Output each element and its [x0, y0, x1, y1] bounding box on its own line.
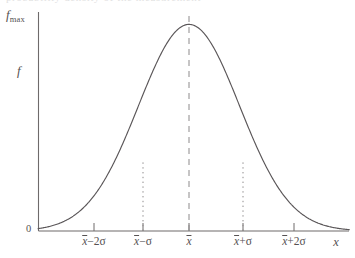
x-tick-label-minus-2-sigma: x−2σ [82, 236, 106, 248]
gaussian-distribution-figure: probability density of the measurement f… [0, 0, 355, 258]
y-axis-max-label: fmax [6, 8, 25, 21]
x-tick-label-mean: x [186, 236, 191, 248]
sigma-symbol: σ [300, 235, 306, 247]
x-axis-tick-marks [94, 223, 294, 231]
x-axis-title: x [333, 236, 339, 249]
operator-symbol: −2 [87, 235, 99, 247]
operator-symbol: +2 [287, 235, 299, 247]
x-tick-label-minus-1-sigma: x−σ [134, 236, 152, 248]
y-axis-origin-label: 0 [26, 224, 31, 235]
mean-symbol: x [282, 236, 287, 248]
plot-canvas [0, 0, 355, 258]
gaussian-curve [38, 24, 349, 229]
mean-symbol: x [134, 236, 139, 248]
mean-symbol: x [186, 236, 191, 248]
x-tick-label-plus-1-sigma: x+σ [234, 236, 252, 248]
mean-symbol: x [82, 236, 87, 248]
sigma-symbol: σ [246, 235, 252, 247]
sigma-symbol: σ [146, 235, 152, 247]
mean-symbol: x [234, 236, 239, 248]
y-axis-max-subscript: max [10, 14, 25, 24]
sigma-symbol: σ [100, 235, 106, 247]
y-axis-title: f [17, 64, 21, 77]
x-tick-label-plus-2-sigma: x+2σ [282, 236, 306, 248]
